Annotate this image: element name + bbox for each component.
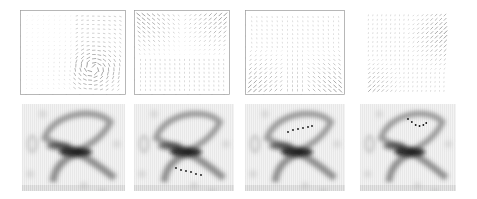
trajectory-dot — [407, 118, 409, 120]
trajectory-dot — [425, 122, 427, 124]
trajectory-dot — [292, 129, 294, 131]
trajectory-dot — [190, 171, 192, 173]
density-map — [360, 104, 456, 191]
density-panel-1 — [22, 104, 125, 191]
quiver-panel-3 — [245, 10, 345, 95]
quiver-panel-1 — [20, 10, 126, 95]
trajectory-dot — [200, 174, 202, 176]
density-panel-2 — [134, 104, 234, 191]
density-panel-3 — [245, 104, 345, 191]
trajectory-dot — [287, 131, 289, 133]
trajectory-dot — [185, 170, 187, 172]
trajectory-dot — [302, 127, 304, 129]
trajectory-dot — [311, 125, 313, 127]
density-map — [134, 104, 234, 191]
density-map — [245, 104, 345, 191]
trajectory-dot — [180, 169, 182, 171]
trajectory-dot — [422, 124, 424, 126]
quiver-panel-4 — [362, 10, 450, 98]
quiver-panel-2 — [134, 10, 230, 95]
quiver-plot — [20, 10, 126, 95]
quiver-plot — [245, 10, 345, 95]
trajectory-dot — [195, 173, 197, 175]
density-panel-4 — [360, 104, 456, 191]
quiver-plot — [134, 10, 230, 95]
trajectory-dot — [419, 125, 421, 127]
trajectory-dot — [307, 126, 309, 128]
density-map — [22, 104, 125, 191]
trajectory-dot — [175, 167, 177, 169]
trajectory-dot — [415, 124, 417, 126]
trajectory-dot — [297, 128, 299, 130]
trajectory-dot — [411, 121, 413, 123]
quiver-plot — [362, 10, 450, 98]
